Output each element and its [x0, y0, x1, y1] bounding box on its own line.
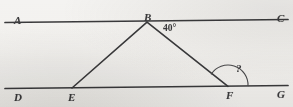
segment-b-e	[72, 22, 147, 88]
point-label-d: D	[14, 92, 22, 103]
angle-label-b: 40°	[163, 24, 176, 34]
bottom-parallel-line	[5, 86, 288, 89]
point-label-c: C	[277, 13, 285, 24]
point-label-a: A	[14, 15, 22, 26]
angle-label-f: ?	[236, 63, 242, 74]
point-label-b: B	[144, 12, 152, 23]
angle-arc-at-f	[211, 65, 248, 86]
segment-b-f	[147, 22, 228, 86]
point-label-g: G	[277, 89, 285, 100]
point-label-f: F	[226, 90, 234, 101]
geometry-figure: A B C D E F G 40° ?	[0, 0, 293, 107]
point-label-e: E	[68, 92, 76, 103]
